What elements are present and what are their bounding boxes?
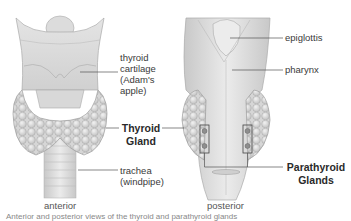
label-epiglottis: epiglottis — [285, 32, 323, 43]
view-label-anterior: anterior — [44, 200, 76, 211]
label-thyroid-gland: Thyroid Gland — [118, 122, 164, 148]
label-thyroid-cartilage: thyroid cartilage (Adam's apple) — [120, 52, 156, 96]
view-label-posterior: posterior — [207, 200, 244, 211]
label-pharynx: pharynx — [285, 64, 319, 75]
label-trachea: trachea (windpipe) — [120, 165, 164, 187]
thyroid-diagram: thyroid cartilage (Adam's apple) Thyroid… — [0, 0, 351, 221]
figure-caption: Anterior and posterior views of the thyr… — [6, 212, 237, 221]
label-parathyroid-glands: Parathyroid Glands — [283, 161, 349, 187]
posterior-view-art — [182, 18, 270, 200]
anterior-view-art — [13, 16, 107, 198]
